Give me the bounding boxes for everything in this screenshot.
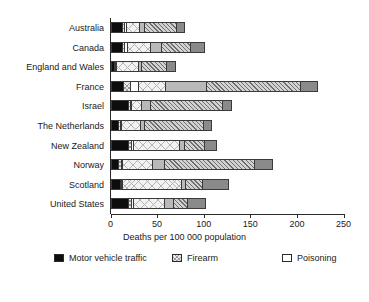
motor-vehicle-swatch <box>54 254 64 262</box>
bar-segment <box>111 22 123 33</box>
x-tick <box>297 214 298 218</box>
category-label: Norway <box>0 160 104 170</box>
legend-item[interactable]: Poisoning <box>282 250 369 266</box>
x-axis-title: Deaths per 100 000 population <box>0 232 369 242</box>
stacked-bar <box>111 120 213 131</box>
bar-segment <box>151 42 161 53</box>
bar-segment <box>111 100 130 111</box>
stacked-bar <box>111 179 229 190</box>
stacked-bar-chart: 050100150200250 AustraliaCanadaEngland a… <box>0 0 369 302</box>
x-tick-label: 150 <box>243 219 258 229</box>
bar-segment <box>204 120 212 131</box>
bar-segment <box>145 22 177 33</box>
bar-segment <box>127 22 140 33</box>
bar-segment <box>151 100 224 111</box>
legend-label: Firearm <box>187 253 218 263</box>
legend-item[interactable]: Motor vehicle traffic <box>54 250 172 266</box>
x-tick <box>344 214 345 218</box>
bar-segment <box>205 140 217 151</box>
category-label: United States <box>0 199 104 209</box>
bar-segment <box>111 42 123 53</box>
bar-segment <box>111 159 119 170</box>
category-label: Canada <box>0 43 104 53</box>
bar-segment <box>132 100 142 111</box>
bar-segment <box>255 159 273 170</box>
category-label: Scotland <box>0 180 104 190</box>
bar-segment <box>142 100 150 111</box>
bar-segment <box>124 81 131 92</box>
bar-segment <box>207 81 300 92</box>
stacked-bar <box>111 81 319 92</box>
category-label: France <box>0 82 104 92</box>
bar-segment <box>162 42 191 53</box>
x-tick-label: 0 <box>108 219 113 229</box>
bar-segment <box>174 198 188 209</box>
bar-segment <box>223 100 231 111</box>
bar-segment <box>123 159 154 170</box>
stacked-bar <box>111 100 232 111</box>
bar-segment <box>165 198 173 209</box>
x-tick <box>250 214 251 218</box>
bar-segment <box>111 179 121 190</box>
stacked-bar <box>111 22 186 33</box>
legend-label: Poisoning <box>297 253 337 263</box>
bar-segment <box>134 140 181 151</box>
x-tick-label: 250 <box>336 219 351 229</box>
bar-segment <box>139 81 166 92</box>
legend-label: Motor vehicle traffic <box>69 253 147 263</box>
stacked-bar <box>111 198 207 209</box>
category-label: Israel <box>0 101 104 111</box>
bar-segment <box>134 198 166 209</box>
bar-segment <box>177 22 185 33</box>
category-label: Australia <box>0 23 104 33</box>
bar-segment <box>166 81 207 92</box>
x-tick-label: 100 <box>196 219 211 229</box>
bar-segment <box>123 179 183 190</box>
chart-legend: Motor vehicle trafficFirearmPoisoningFal… <box>54 250 354 266</box>
stacked-bar <box>111 61 176 72</box>
bar-segment <box>153 159 164 170</box>
x-tick <box>157 214 158 218</box>
bar-segment <box>186 179 203 190</box>
bar-segment <box>111 81 124 92</box>
category-label: New Zealand <box>0 141 104 151</box>
stacked-bar <box>111 159 273 170</box>
stacked-bar <box>111 42 205 53</box>
x-tick <box>111 214 112 218</box>
bar-segment <box>117 61 138 72</box>
bar-segment <box>145 120 204 131</box>
poisoning-swatch <box>282 254 292 262</box>
bar-segment <box>131 81 139 92</box>
bar-segment <box>111 198 130 209</box>
bar-segment <box>167 61 175 72</box>
bar-segment <box>188 198 207 209</box>
category-label: England and Wales <box>0 62 104 72</box>
category-label: The Netherlands <box>0 121 104 131</box>
x-tick-label: 50 <box>152 219 162 229</box>
bar-segment <box>185 140 205 151</box>
bar-segment <box>191 42 205 53</box>
x-axis-line <box>111 214 344 215</box>
bar-segment <box>142 61 167 72</box>
bar-segment <box>111 120 119 131</box>
bar-segment <box>128 42 151 53</box>
bar-segment <box>301 81 319 92</box>
bar-segment <box>203 179 229 190</box>
stacked-bar <box>111 140 217 151</box>
bar-segment <box>122 120 142 131</box>
x-tick-label: 200 <box>289 219 304 229</box>
bar-segment <box>165 159 255 170</box>
firearm-swatch <box>172 254 182 262</box>
x-tick <box>204 214 205 218</box>
bar-segment <box>111 140 130 151</box>
legend-item[interactable]: Firearm <box>172 250 282 266</box>
